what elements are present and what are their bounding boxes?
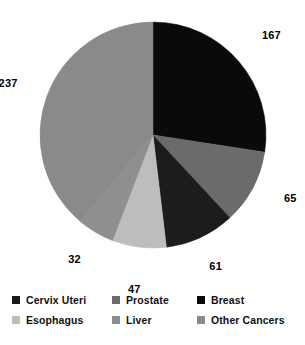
legend-item-label: Other Cancers [211, 314, 285, 326]
pie-chart-figure: 16765614732237 Cervix Uteri Prostate Bre… [0, 0, 305, 345]
pie-plot-area: 16765614732237 [0, 0, 305, 278]
legend-item-label: Esophagus [26, 314, 84, 326]
legend-item-label: Breast [211, 294, 244, 306]
legend-swatch-icon [112, 296, 120, 304]
legend-swatch-icon [12, 316, 20, 324]
legend-swatch-icon [197, 316, 205, 324]
legend-swatch-icon [197, 296, 205, 304]
legend-item-prostate[interactable]: Prostate [112, 290, 197, 310]
legend-item-label: Cervix Uteri [26, 294, 86, 306]
pie-slice-value-label: 65 [284, 192, 297, 204]
pie-slice[interactable] [153, 22, 266, 152]
legend-item-cervix-uteri[interactable]: Cervix Uteri [12, 290, 112, 310]
legend-item-label: Liver [126, 314, 152, 326]
legend-item-esophagus[interactable]: Esophagus [12, 310, 112, 330]
chart-legend: Cervix Uteri Prostate Breast Esophagus L… [0, 290, 305, 330]
legend-item-other-cancers[interactable]: Other Cancers [197, 310, 297, 330]
legend-swatch-icon [112, 316, 120, 324]
pie-slice-value-label: 61 [209, 260, 222, 272]
legend-row: Esophagus Liver Other Cancers [12, 310, 297, 330]
legend-row: Cervix Uteri Prostate Breast [12, 290, 297, 310]
pie-slice-value-label: 237 [0, 77, 18, 89]
legend-swatch-icon [12, 296, 20, 304]
pie-slice-value-label: 167 [262, 29, 281, 41]
legend-item-label: Prostate [126, 294, 169, 306]
pie-slice-value-label: 32 [68, 253, 81, 265]
legend-item-liver[interactable]: Liver [112, 310, 197, 330]
pie-svg [0, 0, 305, 278]
legend-item-breast[interactable]: Breast [197, 290, 297, 310]
